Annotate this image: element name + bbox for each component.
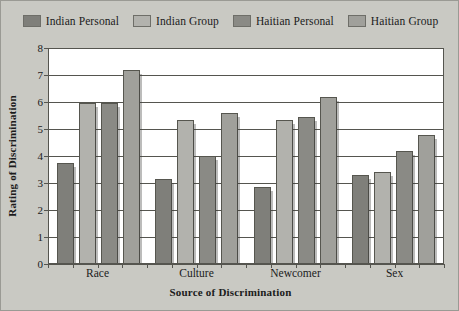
- legend-label: Haitian Personal: [256, 15, 334, 27]
- bar-shadow: [368, 179, 371, 263]
- bar-shadow: [292, 124, 295, 263]
- y-tick-label: 1: [38, 231, 44, 243]
- y-axis-title: Rating of Discrimination: [3, 48, 21, 264]
- legend-entry[interactable]: Indian Personal: [23, 15, 119, 27]
- bar[interactable]: [320, 97, 337, 263]
- y-tick-label: 4: [38, 150, 44, 162]
- bar[interactable]: [177, 120, 194, 263]
- bar[interactable]: [57, 163, 74, 263]
- legend-label: Haitian Group: [371, 15, 438, 27]
- bar-shadow: [215, 160, 218, 263]
- y-tick-mark: [44, 75, 48, 76]
- x-tick-label: Culture: [179, 267, 214, 279]
- y-tick-mark: [44, 210, 48, 211]
- y-tick-label: 6: [38, 96, 44, 108]
- x-tick-mark: [246, 264, 247, 268]
- bar[interactable]: [221, 113, 238, 263]
- bar-shadow: [171, 183, 174, 263]
- bar-shadow: [314, 121, 317, 263]
- bar[interactable]: [374, 172, 391, 263]
- legend-entry[interactable]: Indian Group: [133, 15, 219, 27]
- y-tick-mark: [44, 48, 48, 49]
- bar-group: [49, 49, 148, 263]
- legend-swatch-icon: [233, 15, 251, 27]
- bar[interactable]: [396, 151, 413, 263]
- bar-shadow: [117, 107, 120, 264]
- bar[interactable]: [276, 120, 293, 263]
- legend-swatch-icon: [23, 15, 41, 27]
- x-tick-mark: [320, 264, 321, 268]
- plot-wrapper: 012345678 RaceCultureNewcomerSex: [48, 48, 444, 264]
- bar[interactable]: [418, 135, 435, 263]
- bar-shadow: [95, 107, 98, 264]
- bar-shadow: [139, 74, 142, 263]
- x-tick-label: Newcomer: [270, 267, 320, 279]
- x-tick-mark: [172, 264, 173, 268]
- x-tick-mark: [370, 264, 371, 268]
- bar-shadow: [434, 139, 437, 263]
- y-tick-label: 7: [38, 69, 44, 81]
- bar-shadow: [412, 155, 415, 263]
- bar-group: [148, 49, 247, 263]
- bar[interactable]: [155, 179, 172, 263]
- x-tick-mark: [444, 264, 445, 268]
- bar[interactable]: [123, 70, 140, 263]
- legend-label: Indian Personal: [46, 15, 119, 27]
- y-tick-mark: [44, 183, 48, 184]
- bar-groups: [49, 49, 443, 263]
- y-tick-mark: [44, 237, 48, 238]
- bar-shadow: [336, 101, 339, 263]
- x-tick-mark: [73, 264, 74, 268]
- y-tick-mark: [44, 156, 48, 157]
- x-tick-mark: [221, 264, 222, 268]
- chart-figure: Indian PersonalIndian GroupHaitian Perso…: [0, 0, 459, 311]
- y-tick-label: 0: [38, 258, 44, 270]
- bar-shadow: [193, 124, 196, 263]
- chart-legend: Indian PersonalIndian GroupHaitian Perso…: [1, 15, 459, 27]
- bar[interactable]: [199, 156, 216, 263]
- y-tick-mark: [44, 102, 48, 103]
- x-axis-title: Source of Discrimination: [1, 286, 459, 298]
- legend-swatch-icon: [133, 15, 151, 27]
- x-tick-label: Sex: [386, 267, 403, 279]
- legend-swatch-icon: [348, 15, 366, 27]
- legend-entry[interactable]: Haitian Group: [348, 15, 438, 27]
- bar[interactable]: [254, 187, 271, 263]
- x-tick-mark: [197, 264, 198, 268]
- bar-group: [345, 49, 444, 263]
- bar[interactable]: [352, 175, 369, 263]
- legend-label: Indian Group: [156, 15, 219, 27]
- x-tick-mark: [147, 264, 148, 268]
- x-tick-mark: [395, 264, 396, 268]
- bar-shadow: [270, 191, 273, 263]
- y-tick-label: 2: [38, 204, 44, 216]
- x-tick-mark: [98, 264, 99, 268]
- x-tick-mark: [271, 264, 272, 268]
- legend-entry[interactable]: Haitian Personal: [233, 15, 334, 27]
- x-tick-mark: [296, 264, 297, 268]
- y-tick-label: 8: [38, 42, 44, 54]
- bar-shadow: [237, 117, 240, 263]
- bar[interactable]: [79, 103, 96, 264]
- x-tick-mark: [122, 264, 123, 268]
- x-tick-label: Race: [86, 267, 109, 279]
- y-tick-label: 5: [38, 123, 44, 135]
- bar-group: [246, 49, 345, 263]
- bar[interactable]: [298, 117, 315, 263]
- x-tick-mark: [419, 264, 420, 268]
- x-tick-mark: [345, 264, 346, 268]
- y-tick-mark: [44, 129, 48, 130]
- x-tick-mark: [48, 264, 49, 268]
- y-axis-title-text: Rating of Discrimination: [6, 95, 18, 217]
- bar[interactable]: [101, 103, 118, 264]
- y-tick-label: 3: [38, 177, 44, 189]
- bar-shadow: [73, 167, 76, 263]
- bar-shadow: [390, 176, 393, 263]
